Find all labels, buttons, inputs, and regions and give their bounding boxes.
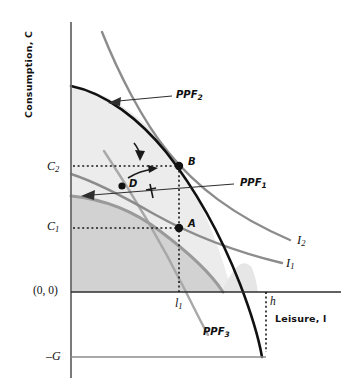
x-tick-h: h xyxy=(270,296,276,308)
point-label-A: A xyxy=(188,219,196,229)
ppf-indifference-figure: Consumption, C Leisure, l C2 C1 –G (0, 0… xyxy=(0,0,348,385)
label-ppf3: PPF3 xyxy=(203,327,230,338)
diagram-canvas xyxy=(0,0,348,385)
label-i1-sub: 1 xyxy=(290,261,294,271)
y-tick-C2-sub: 2 xyxy=(55,164,59,174)
y-tick-negG: –G xyxy=(46,350,61,362)
label-ppf1-text: PPF xyxy=(240,177,262,188)
label-i2: I2 xyxy=(297,234,305,248)
label-ppf3-text: PPF xyxy=(203,326,225,337)
y-tick-C2-text: C xyxy=(47,159,55,173)
y-axis-title: Consumption, C xyxy=(24,31,34,118)
point-label-D: D xyxy=(129,179,137,189)
label-ppf2: PPF2 xyxy=(176,90,203,101)
label-i2-sub: 2 xyxy=(301,238,305,248)
point-A xyxy=(175,224,183,232)
point-label-B: B xyxy=(188,157,196,167)
label-ppf2-sub: 2 xyxy=(198,93,203,102)
label-ppf3-sub: 3 xyxy=(225,330,230,339)
y-tick-C1-text: C xyxy=(47,219,55,233)
x-tick-l1-sub: 1 xyxy=(178,301,182,311)
y-tick-C1: C1 xyxy=(47,220,59,233)
y-tick-C2: C2 xyxy=(47,160,59,173)
leader-ppf2 xyxy=(118,96,172,101)
label-ppf2-text: PPF xyxy=(176,89,198,100)
origin-label: (0, 0) xyxy=(33,285,58,297)
x-tick-l1: l1 xyxy=(175,297,183,310)
point-D xyxy=(118,182,125,189)
label-ppf1: PPF1 xyxy=(240,178,267,189)
label-i1: I1 xyxy=(286,257,294,271)
y-tick-negG-text: –G xyxy=(46,349,61,363)
point-B xyxy=(175,162,183,170)
y-tick-C1-sub: 1 xyxy=(55,224,59,234)
x-axis-title: Leisure, l xyxy=(275,314,326,324)
label-ppf1-sub: 1 xyxy=(262,181,267,190)
